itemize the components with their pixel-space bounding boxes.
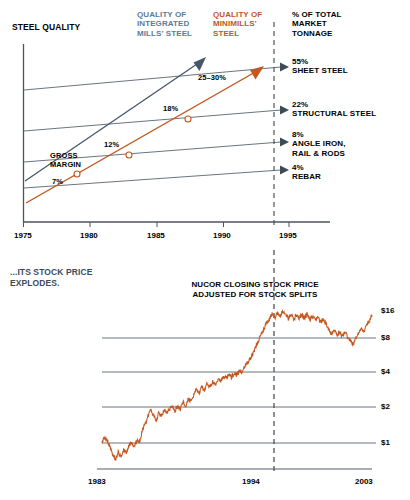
margin-value-18: 18% [163,105,178,114]
stock-ytick-8: $8 [381,333,390,342]
margin-value-12: 12% [104,141,119,150]
gross-margin-label: GROSS MARGIN [50,152,81,170]
integrated-mills-arrowhead [194,57,207,71]
margin-value-25-30: 25–30% [198,74,226,83]
arrowhead-angle-iron [280,138,289,147]
margin-value-7: 7% [52,178,63,187]
arrowhead-structural-steel [280,106,289,115]
top-chart-x-ticks [24,222,290,227]
stock-ytick-16: $16 [381,306,395,315]
arrowhead-sheet-steel [280,63,289,72]
top-xtick-1975: 1975 [14,231,32,240]
band-sheet-steel [24,67,281,90]
top-xtick-1990: 1990 [213,231,231,240]
stock-price-line [102,311,372,460]
stock-ytick-1: $1 [381,438,390,447]
stock-xtick-1994: 1994 [242,477,260,486]
stock-xtick-1983: 1983 [88,477,106,486]
top-xtick-1985: 1985 [147,231,165,240]
top-xtick-1995: 1995 [279,231,297,240]
arrowhead-rebar [280,166,289,175]
stock-price-plot [0,250,410,500]
top-xtick-1980: 1980 [80,231,98,240]
gross-margin-line2: MARGIN [50,161,81,170]
stock-xtick-2003: 2003 [355,477,373,486]
tonnage-band-lines [24,67,281,188]
margin-marker-12 [126,152,132,158]
margin-marker-18 [185,116,191,122]
minimills-arrowhead [250,66,264,80]
margin-marker-7 [74,171,80,177]
band-structural-steel [24,110,281,131]
tonnage-band-arrowheads [280,63,289,175]
stock-ytick-2: $2 [381,402,390,411]
top-chart-plot [0,0,410,250]
stock-ytick-4: $4 [381,367,390,376]
